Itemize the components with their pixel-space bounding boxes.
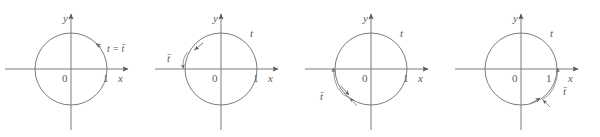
- y-axis-label: y: [362, 12, 368, 24]
- unit-label: 1: [253, 72, 259, 84]
- terminal-label: t: [250, 27, 254, 39]
- origin-label: 0: [212, 72, 218, 84]
- x-axis-label: x: [267, 72, 273, 84]
- panel-3: y x 0 1 t t̄: [300, 0, 450, 137]
- unit-label: 1: [403, 72, 409, 84]
- x-axis-label: x: [417, 72, 423, 84]
- y-axis-label: y: [62, 12, 68, 24]
- x-axis-label: x: [117, 72, 123, 84]
- origin-label: 0: [362, 72, 368, 84]
- t-bar-label: t̄: [563, 85, 567, 97]
- y-axis-label: y: [512, 12, 518, 24]
- circle-direction-arrow: [195, 43, 204, 50]
- panel-4: y x 0 1 t t̄: [450, 0, 600, 137]
- origin-label: 0: [62, 72, 68, 84]
- origin-label: 0: [512, 72, 518, 84]
- t-bar-label: t̄: [167, 52, 171, 64]
- terminal-label: t = t̄: [107, 43, 126, 54]
- panel-1: y x 0 1 t = t̄: [0, 0, 150, 137]
- unit-label: 1: [546, 72, 552, 84]
- t-bar-label: t̄: [320, 90, 324, 102]
- four-unit-circle-figure: y x 0 1 t = t̄ y x 0 1: [0, 0, 600, 137]
- terminal-label: t: [400, 27, 404, 39]
- terminal-label: t: [550, 27, 554, 39]
- unit-label: 1: [103, 72, 109, 84]
- y-axis-label: y: [212, 12, 218, 24]
- x-axis-label: x: [567, 72, 573, 84]
- panel-2: y x 0 1 t t̄: [150, 0, 300, 137]
